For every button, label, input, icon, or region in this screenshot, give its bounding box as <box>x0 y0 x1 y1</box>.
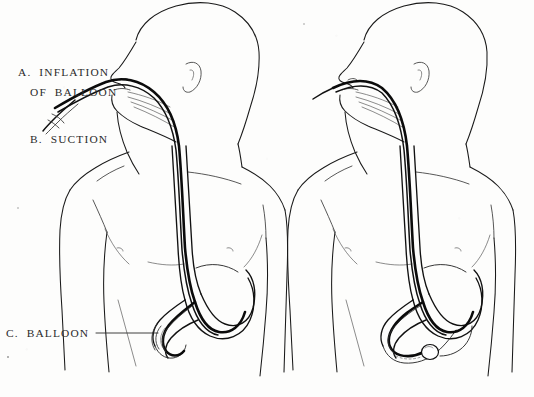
right-nipple-left <box>345 248 351 251</box>
right-nostril <box>348 79 357 81</box>
left-nipple-left <box>117 248 123 251</box>
illustration-plate: A. INFLATION OF BALLOON B. SUCTION C. BA… <box>0 0 534 397</box>
left-flank-right <box>260 238 268 376</box>
left-suction-limb-edge <box>46 104 78 134</box>
right-pec-right <box>472 235 490 267</box>
label-a-line2: OF BALLOON <box>30 86 117 98</box>
left-stomach-fundus <box>196 265 238 272</box>
left-pec-left <box>105 229 129 264</box>
left-ear-inner <box>190 70 194 80</box>
right-tube-nose-stub <box>313 88 333 99</box>
left-ear <box>183 62 201 92</box>
right-clavicle-right <box>416 172 469 184</box>
right-ear <box>411 62 429 92</box>
right-tube-distal-inner <box>388 306 420 353</box>
left-armpit-left <box>93 200 107 232</box>
right-pec-left <box>333 229 357 264</box>
left-stomach-greater-curve <box>201 270 255 326</box>
right-arm-right-outer <box>512 210 516 372</box>
left-nipple-right <box>227 248 233 251</box>
left-head-outline <box>136 3 259 144</box>
right-abdominal-crease <box>346 300 364 366</box>
left-neck-back <box>238 144 242 167</box>
right-flank-right <box>488 238 496 376</box>
page-speck <box>17 207 19 209</box>
page-speck <box>7 356 9 358</box>
right-tube-secondary <box>336 86 446 335</box>
label-b: B. SUCTION <box>30 133 108 145</box>
right-nipple-right <box>455 248 461 251</box>
right-armpit-right <box>491 205 494 238</box>
right-flank-left <box>332 232 337 372</box>
left-clavicle-right <box>188 172 241 184</box>
left-clavicle-left <box>97 166 124 181</box>
medical-line-drawing: A. INFLATION OF BALLOON B. SUCTION C. BA… <box>0 0 534 397</box>
left-figure <box>43 3 288 376</box>
left-arm-right-outer <box>284 210 288 372</box>
label-a-line1: A. INFLATION <box>18 66 109 78</box>
right-head-outline <box>364 3 487 144</box>
left-shoulder-left <box>70 152 129 190</box>
label-c: C. BALLOON <box>6 327 89 339</box>
left-tube-main <box>55 79 245 332</box>
left-flank-left <box>104 232 109 372</box>
right-shoulder-left <box>298 152 357 190</box>
left-pec-right <box>244 235 262 267</box>
right-ear-inner <box>418 70 422 80</box>
right-shoulder-right <box>470 167 513 210</box>
right-neck-back <box>466 144 470 167</box>
page-speck <box>303 23 305 25</box>
left-duodenum-loop <box>155 345 186 358</box>
left-shoulder-right <box>242 167 285 210</box>
left-neck-front <box>117 112 139 174</box>
right-stomach-greater-curve <box>429 270 483 326</box>
right-armpit-left <box>321 200 335 232</box>
right-figure <box>288 3 516 376</box>
right-clavicle-left <box>325 166 352 181</box>
left-arm-left-outer <box>60 190 70 370</box>
left-armpit-right <box>263 205 266 238</box>
right-stomach-fundus <box>424 265 466 272</box>
right-neck-front <box>345 112 367 174</box>
right-arm-left-outer <box>288 190 298 370</box>
left-stomach-lesser-curve <box>185 278 254 339</box>
